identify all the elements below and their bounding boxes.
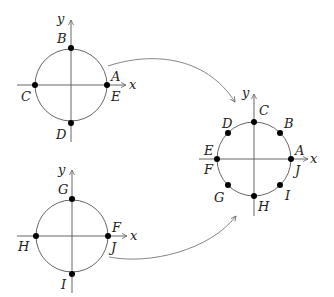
label-f: F (111, 220, 122, 235)
label-d: D (55, 127, 67, 142)
point-b (277, 130, 283, 136)
x-axis-label: x (130, 228, 138, 243)
label-i: I (284, 188, 291, 203)
label-j: J (292, 163, 301, 178)
label-b: B (56, 31, 67, 46)
label-c: C (21, 89, 31, 104)
point-i (69, 271, 75, 277)
label-e: E (203, 143, 214, 158)
point-h (251, 193, 257, 199)
top-left-plot: x y A B C D E (17, 11, 137, 142)
point-h (33, 233, 39, 239)
label-e: E (110, 89, 121, 104)
right-plot: x y A B C D E F G H I J (199, 85, 318, 216)
label-h: H (17, 239, 30, 254)
label-c: C (259, 103, 269, 118)
mapping-arrow-bottom (109, 216, 236, 259)
bottom-left-plot: x y F G H I J (17, 162, 138, 293)
point-i (277, 182, 283, 188)
label-g: G (214, 190, 224, 205)
point-g (69, 196, 75, 202)
label-h: H (257, 199, 270, 214)
label-d: D (221, 116, 233, 131)
point-f-j (105, 233, 111, 239)
label-a: A (294, 143, 304, 158)
point-a-e (104, 82, 110, 88)
label-g: G (58, 182, 68, 197)
point-g (225, 182, 231, 188)
point-d (68, 120, 74, 126)
y-axis-label: y (57, 162, 66, 177)
y-axis-label: y (241, 85, 250, 100)
x-axis-label: x (129, 77, 137, 92)
label-i: I (60, 277, 67, 292)
point-a-j (288, 156, 294, 162)
label-j: J (108, 240, 117, 255)
y-axis-label: y (56, 11, 65, 26)
point-c (32, 82, 38, 88)
point-c (251, 119, 257, 125)
label-b: B (283, 116, 294, 131)
mapping-arrow-top (108, 59, 235, 102)
label-a: A (110, 69, 120, 84)
label-f: F (203, 162, 214, 177)
point-b (68, 45, 74, 51)
circle-mapping-diagram: x y A B C D E x y F G H I J x (0, 0, 334, 297)
point-e-f (214, 156, 220, 162)
x-axis-label: x (310, 151, 318, 166)
